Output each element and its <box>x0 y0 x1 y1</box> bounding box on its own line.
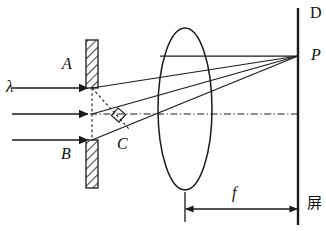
optics-diagram: λ A B C D P f 屏 <box>0 0 326 231</box>
incident-rays-group <box>12 88 88 140</box>
diffracted-ray-from-center <box>92 56 298 114</box>
label-wavelength: λ <box>6 78 13 95</box>
diffracted-ray-from-B <box>92 56 298 140</box>
right-angle-marker <box>111 108 125 122</box>
label-screen-cjk: 屏 <box>307 196 322 211</box>
label-screen-top: D <box>310 5 322 21</box>
label-upper-blade: A <box>62 56 72 72</box>
label-focal-length: f <box>232 185 236 201</box>
focal-length-dimension <box>185 192 297 222</box>
diffracted-ray-from-A <box>92 56 298 88</box>
slit-blade-upper <box>86 40 98 88</box>
converging-lens <box>158 28 212 190</box>
label-focus-point: P <box>311 47 321 63</box>
label-slit-point: C <box>117 136 128 152</box>
slit-blade-lower <box>86 140 98 188</box>
label-lower-blade: B <box>61 146 71 162</box>
diffracted-rays-group <box>92 56 298 140</box>
diagram-canvas <box>0 0 326 231</box>
